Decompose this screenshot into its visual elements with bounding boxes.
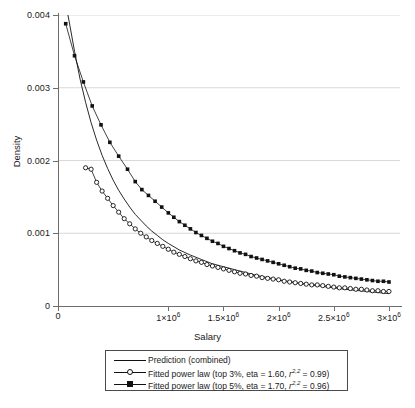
series-marker: [222, 245, 226, 249]
series-marker: [249, 255, 253, 259]
series-marker: [64, 22, 68, 26]
series-marker: [343, 275, 347, 279]
series-marker: [106, 196, 110, 200]
series-marker: [205, 237, 209, 241]
y-axis-line: [58, 13, 59, 308]
series-marker: [122, 217, 126, 221]
legend-key: [112, 366, 148, 378]
series-marker: [238, 251, 242, 255]
series-marker: [365, 278, 369, 282]
y-tick: [53, 161, 58, 162]
x-tick-mantissa: 1×10: [156, 313, 176, 323]
series-marker: [271, 277, 275, 281]
y-tick-label: 0.003: [27, 83, 50, 93]
series-marker: [376, 289, 380, 293]
legend-key: [112, 354, 148, 366]
x-tick-exponent: 6: [346, 311, 350, 318]
series-marker: [89, 167, 93, 171]
series-marker: [370, 289, 374, 293]
series-marker: [354, 287, 358, 291]
series-marker: [299, 281, 303, 285]
series-marker: [227, 247, 231, 251]
x-tick-label: 1.5×106: [208, 311, 239, 323]
series-marker: [332, 273, 336, 277]
series-marker: [140, 188, 144, 192]
series-marker: [161, 244, 165, 248]
series-marker: [354, 277, 358, 281]
series-marker: [238, 271, 242, 275]
plot-area: [58, 15, 400, 306]
series-marker: [144, 235, 148, 239]
series-marker: [326, 272, 330, 276]
y-tick: [53, 88, 58, 89]
series-marker: [260, 258, 264, 262]
series-marker: [321, 284, 325, 288]
series-marker: [183, 254, 187, 258]
series-marker: [249, 273, 253, 277]
series-marker: [126, 167, 130, 171]
series-marker: [172, 250, 176, 254]
series-marker: [73, 54, 77, 58]
series-marker: [200, 234, 204, 238]
series-marker: [337, 286, 341, 290]
series-marker: [183, 223, 187, 227]
series-marker: [167, 211, 171, 215]
series-marker: [260, 276, 264, 280]
series-marker: [128, 222, 132, 226]
series-marker: [315, 283, 319, 287]
series-marker: [255, 256, 259, 260]
series-marker: [153, 199, 157, 203]
series-marker: [310, 283, 314, 287]
series-marker: [243, 272, 247, 276]
series-marker: [321, 271, 325, 275]
series-marker: [150, 238, 154, 242]
series-marker: [82, 80, 86, 84]
legend-label-superscript: 2,2: [292, 368, 300, 374]
series-marker: [266, 259, 270, 263]
series-marker: [155, 241, 159, 245]
x-tick-mantissa: 2.5×10: [318, 313, 346, 323]
series-marker: [133, 227, 137, 231]
x-tick-exponent: 6: [287, 311, 291, 318]
series-marker: [227, 268, 231, 272]
series-marker: [299, 267, 303, 271]
series-1: [83, 166, 391, 294]
series-marker: [349, 276, 353, 280]
series-marker: [293, 281, 297, 285]
series-marker: [139, 231, 143, 235]
legend-label-text: Prediction (combined): [148, 355, 231, 365]
legend-open-marker-icon: [127, 369, 133, 375]
series-marker: [160, 205, 164, 209]
x-tick-label: 2.5×106: [318, 311, 349, 323]
series-marker: [216, 265, 220, 269]
legend-label-tail: = 0.96): [300, 380, 329, 390]
figure: 00.0010.0020.0030.004 01×1061.5×1062×106…: [0, 0, 415, 408]
series-marker: [166, 247, 170, 251]
series-marker: [326, 284, 330, 288]
series-marker: [117, 210, 121, 214]
series-marker: [387, 280, 391, 284]
series-marker: [343, 286, 347, 290]
series-marker: [359, 287, 363, 291]
series-marker: [188, 257, 192, 261]
series-marker: [211, 239, 215, 243]
series-marker: [277, 278, 281, 282]
legend-entry[interactable]: Fitted power law (top 5%, eta = 1.70, r2…: [112, 378, 347, 390]
series-marker: [95, 180, 99, 184]
x-tick-exponent: 6: [397, 311, 401, 318]
x-tick-mantissa: 1.5×10: [208, 313, 236, 323]
series-marker: [83, 166, 87, 170]
series-marker: [360, 277, 364, 281]
y-tick-label: 0.002: [27, 156, 50, 166]
series-marker: [277, 262, 281, 266]
series-marker: [338, 274, 342, 278]
legend-label-superscript: 2,2: [292, 380, 300, 386]
y-tick-label: 0.004: [27, 10, 50, 20]
series-marker: [194, 231, 198, 235]
series-marker: [371, 279, 375, 283]
series-marker: [282, 279, 286, 283]
x-tick-label: 3×106: [377, 311, 401, 323]
series-marker: [147, 194, 151, 198]
series-marker: [244, 253, 248, 257]
series-marker: [271, 261, 275, 265]
